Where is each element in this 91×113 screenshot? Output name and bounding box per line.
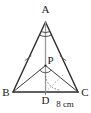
point-p-dot [44, 64, 46, 66]
geometry-canvas: A B C D P 8 cm [0, 0, 91, 113]
segment-pc [46, 66, 79, 93]
angle-arc-d [46, 76, 61, 90]
label-vertex-a: A [42, 3, 50, 15]
label-vertex-c: C [81, 86, 88, 98]
label-vertex-d: D [42, 94, 50, 106]
geometry-figure: A B C D P 8 cm [0, 0, 91, 113]
label-point-p: P [47, 54, 53, 66]
segment-pb [13, 66, 46, 93]
label-vertex-b: B [2, 86, 9, 98]
label-measure-dc: 8 cm [56, 99, 74, 109]
